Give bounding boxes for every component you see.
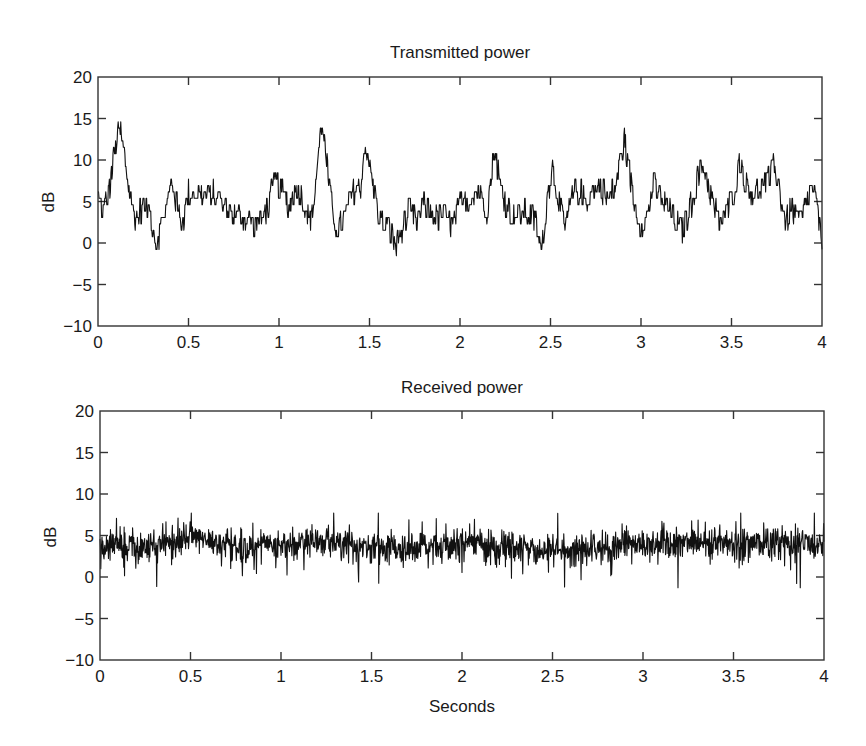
x-tick-label: 0 xyxy=(95,667,104,686)
y-tick-label: 5 xyxy=(85,527,94,546)
y-axis-label-top: dB xyxy=(39,192,58,213)
x-tick-label: 3.5 xyxy=(722,667,746,686)
transmitted-power-plot: Transmitted power dB 00.511.522.533.54−1… xyxy=(39,43,827,352)
received-power-line xyxy=(100,513,824,588)
y-tick-label: 20 xyxy=(73,68,92,87)
x-tick-label: 0.5 xyxy=(177,333,201,352)
y-tick-label: 5 xyxy=(83,193,92,212)
x-tick-label: 4 xyxy=(819,667,828,686)
x-tick-label: 0.5 xyxy=(179,667,203,686)
x-tick-label: 1 xyxy=(274,333,283,352)
x-tick-label: 1.5 xyxy=(360,667,384,686)
x-tick-label: 2.5 xyxy=(541,667,565,686)
y-tick-label: 15 xyxy=(75,444,94,463)
x-tick-label: 1.5 xyxy=(358,333,382,352)
y-tick-label: 20 xyxy=(75,402,94,421)
x-tick-label: 4 xyxy=(817,333,826,352)
y-tick-label: −5 xyxy=(73,276,92,295)
plot-title-transmitted: Transmitted power xyxy=(390,43,530,62)
plot-title-received: Received power xyxy=(401,378,523,397)
x-tick-label: 2 xyxy=(457,667,466,686)
figure: Transmitted power dB 00.511.522.533.54−1… xyxy=(0,0,866,746)
y-tick-label: 0 xyxy=(85,568,94,587)
x-tick-label: 2.5 xyxy=(539,333,563,352)
y-tick-label: 15 xyxy=(73,110,92,129)
x-axis-label-seconds: Seconds xyxy=(429,697,495,716)
x-tick-label: 1 xyxy=(276,667,285,686)
received-power-plot: Received power dB Seconds 00.511.522.533… xyxy=(41,378,829,716)
x-tick-label: 3.5 xyxy=(720,333,744,352)
y-tick-label: −10 xyxy=(63,317,92,336)
transmitted-power-line xyxy=(98,122,822,256)
y-axis-label-bottom: dB xyxy=(41,527,60,548)
y-tick-label: 10 xyxy=(75,485,94,504)
x-tick-label: 2 xyxy=(455,333,464,352)
y-tick-label: 0 xyxy=(83,234,92,253)
x-tick-label: 0 xyxy=(93,333,102,352)
y-tick-label: −5 xyxy=(75,610,94,629)
y-tick-label: 10 xyxy=(73,151,92,170)
x-tick-label: 3 xyxy=(638,667,647,686)
y-tick-label: −10 xyxy=(65,651,94,670)
x-tick-label: 3 xyxy=(636,333,645,352)
